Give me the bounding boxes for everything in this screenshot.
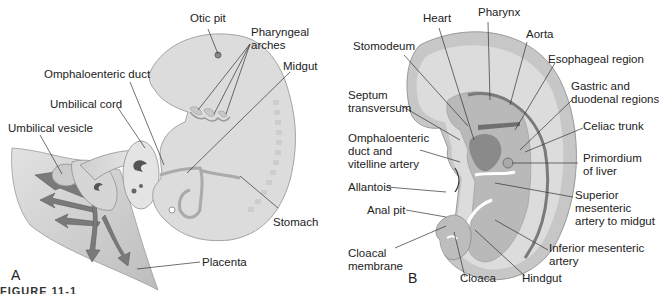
label-cloacal-membrane: Cloacal membrane [348, 247, 403, 273]
label-umbilical-vesicle: Umbilical vesicle [8, 122, 93, 135]
label-cloaca: Cloaca [460, 272, 496, 285]
label-pharynx: Pharynx [478, 6, 520, 19]
label-aorta: Aorta [526, 28, 554, 41]
label-septum-transversum: Septum transversum [348, 89, 411, 115]
label-stomach: Stomach [273, 216, 318, 229]
label-inferior-mesenteric-artery: Inferior mesenteric artery [549, 242, 644, 268]
panel-letter-a: A [11, 267, 20, 283]
label-omphaloenteric-duct: Omphaloenteric duct [44, 68, 150, 81]
label-umbilical-cord: Umbilical cord [50, 98, 122, 111]
label-allantois: Allantois [348, 181, 391, 194]
label-hindgut: Hindgut [522, 272, 562, 285]
label-omphaloenteric-duct-vitelline-artery: Omphaloenteric duct and vitelline artery [348, 132, 429, 171]
label-otic-pit: Otic pit [190, 12, 226, 25]
label-esophageal-region: Esophageal region [548, 53, 644, 66]
label-celiac-trunk: Celiac trunk [583, 120, 644, 133]
label-heart: Heart [423, 12, 451, 25]
label-superior-mesenteric-artery: Superior mesenteric artery to midgut [575, 189, 655, 228]
label-stomodeum: Stomodeum [353, 40, 415, 53]
panel-letter-b: B [408, 270, 417, 286]
label-pharyngeal-arches: Pharyngeal arches [251, 26, 309, 52]
otic-pit-shape [215, 52, 221, 58]
label-midgut: Midgut [283, 60, 318, 73]
label-anal-pit: Anal pit [367, 204, 405, 217]
label-gastric-duodenal-regions: Gastric and duodenal regions [571, 80, 659, 106]
liver-primordium-shape [503, 158, 513, 168]
label-primordium-of-liver: Primordium of liver [583, 152, 642, 178]
label-placenta: Placenta [202, 256, 247, 269]
figure-caption-fragment: FIGURE 11-1 [0, 286, 77, 294]
